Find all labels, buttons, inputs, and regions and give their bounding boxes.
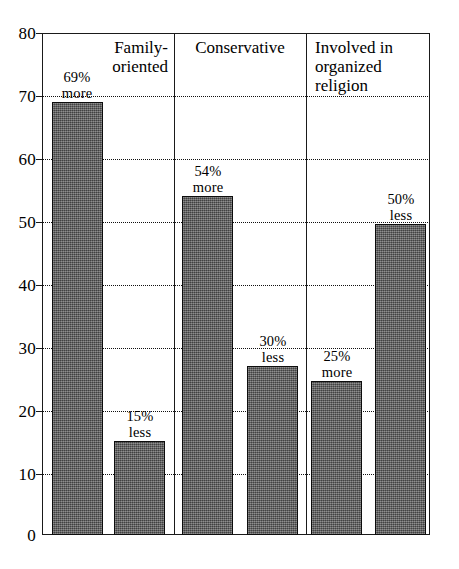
bar-conservative-less: [247, 366, 298, 535]
bar-family-oriented-less: [114, 441, 165, 535]
panel-divider-1: [174, 33, 175, 535]
bar-family-oriented-more: [52, 102, 103, 535]
bar-label-family-oriented-more: 69% more: [45, 70, 109, 101]
y-axis-tick-label-20: 20: [0, 403, 36, 420]
y-axis-tick-label-10: 10: [0, 466, 36, 483]
bar-label-conservative-less: 30% less: [241, 334, 305, 365]
y-axis-tick-label-30: 30: [0, 340, 36, 357]
panel-header-conservative: Conservative: [178, 38, 302, 57]
bar-chart: 80 70 60 50 40 30 20 10 0 Family- orient…: [0, 0, 459, 569]
y-axis-tick-label-70: 70: [0, 88, 36, 105]
y-axis-tick-label-80: 80: [0, 25, 36, 42]
y-axis-tick-label-60: 60: [0, 151, 36, 168]
bar-label-organized-religion-less: 50% less: [369, 192, 433, 223]
bar-organized-religion-less: [375, 224, 426, 535]
bar-organized-religion-more: [311, 381, 362, 535]
bar-label-conservative-more: 54% more: [176, 164, 240, 195]
panel-header-organized-religion: Involved in organized religion: [315, 38, 429, 95]
bar-label-family-oriented-less: 15% less: [108, 409, 172, 440]
y-axis-tick-label-0: 0: [0, 527, 36, 544]
y-axis-tick-label-40: 40: [0, 277, 36, 294]
bar-conservative-more: [182, 196, 233, 535]
panel-divider-2: [306, 33, 307, 535]
y-axis-tick-label-50: 50: [0, 214, 36, 231]
bar-label-organized-religion-more: 25% more: [305, 349, 369, 380]
